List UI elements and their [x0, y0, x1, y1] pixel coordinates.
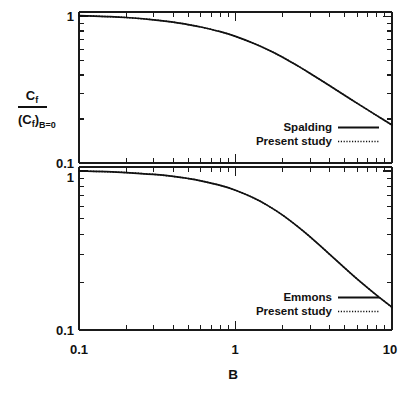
- legend-top: Spalding Present study: [256, 121, 379, 147]
- series-line-present-study-top: [79, 16, 392, 125]
- panel-bottom-y-ticks: [79, 171, 392, 330]
- panel-bottom-x-ticks: [79, 167, 392, 330]
- series-line-spalding: [79, 16, 392, 125]
- xtick-label-1: 1: [231, 342, 238, 357]
- panel-bottom-ytick-label-0.1: 0.1: [56, 323, 74, 338]
- legend-label-present-study-bottom: Present study: [256, 305, 333, 317]
- legend-label-spalding: Spalding: [283, 121, 332, 133]
- panel-bottom: 1 0.1 Emmons Present study: [56, 167, 392, 338]
- y-axis-denominator: (Cf)B=0: [18, 112, 56, 130]
- panel-top-y-ticks: [79, 17, 392, 163]
- panel-top-frame: [79, 12, 392, 163]
- xtick-label-10: 10: [383, 342, 397, 357]
- legend-bottom: Emmons Present study: [256, 291, 379, 317]
- series-line-present-study-bottom: [79, 171, 392, 307]
- panel-top-ytick-label-1: 1: [67, 9, 74, 24]
- xtick-label-0.1: 0.1: [70, 342, 88, 357]
- y-axis-numerator-subscript: f: [35, 95, 39, 105]
- panel-bottom-ytick-label-1: 1: [67, 170, 74, 185]
- y-axis-title: Cf (Cf)B=0: [18, 88, 56, 130]
- chart-svg: 1 0.1 Spalding Present study 1 0.1 Emmon…: [0, 0, 415, 396]
- legend-label-emmons: Emmons: [283, 291, 332, 303]
- x-axis-title: B: [228, 367, 238, 382]
- series-line-emmons: [79, 171, 392, 307]
- panel-top-ytick-label-0.1: 0.1: [56, 156, 74, 171]
- y-axis-denominator-condition: B=0: [39, 120, 56, 130]
- panel-top: 1 0.1 Spalding Present study: [56, 9, 392, 171]
- y-axis-numerator: Cf: [26, 88, 39, 105]
- panel-bottom-frame: [79, 167, 392, 330]
- legend-label-present-study-top: Present study: [256, 135, 333, 147]
- y-axis-denominator-open: (C: [18, 112, 32, 127]
- figure-container: 1 0.1 Spalding Present study 1 0.1 Emmon…: [0, 0, 415, 396]
- panel-top-x-ticks: [79, 12, 392, 163]
- x-axis-tick-labels: 0.1 1 10: [70, 342, 397, 357]
